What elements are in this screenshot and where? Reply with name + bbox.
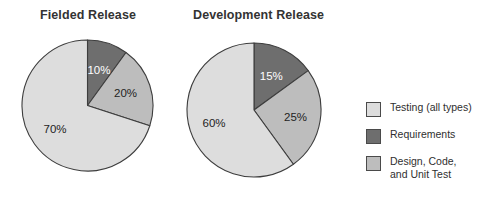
pie-chart-fielded-release: 10% 20% 70% [20, 38, 156, 174]
legend-swatch-design-code-icon [366, 156, 381, 171]
pie-1-slice-label-design-code: 20% [114, 87, 137, 99]
pie-1-slice-label-testing: 70% [44, 123, 67, 135]
chart-title-fielded-release: Fielded Release [40, 8, 136, 22]
legend-label-testing: Testing (all types) [390, 101, 472, 114]
legend-label-design-code: Design, Code, and Unit Test [390, 155, 457, 180]
legend-item-requirements: Requirements [366, 128, 488, 144]
pie-2-slice-label-testing: 60% [203, 117, 226, 129]
chart-legend: Testing (all types) Requirements Design,… [366, 101, 488, 191]
pie-chart-development-release: 15% 25% 60% [185, 41, 325, 181]
legend-item-testing: Testing (all types) [366, 101, 488, 117]
chart-title-development-release: Development Release [193, 8, 324, 22]
legend-item-design-code: Design, Code, and Unit Test [366, 155, 488, 180]
legend-swatch-testing-icon [366, 102, 381, 117]
pie-2-svg: 15% 25% 60% [185, 41, 325, 181]
legend-swatch-requirements-icon [366, 129, 381, 144]
pie-2-slice-label-requirements: 15% [260, 70, 283, 82]
pie-1-svg: 10% 20% 70% [20, 38, 156, 174]
pie-chart-figure: Fielded Release Development Release 10% … [0, 0, 489, 202]
pie-2-slice-label-design-code: 25% [284, 111, 307, 123]
legend-label-requirements: Requirements [390, 128, 455, 141]
pie-1-slice-label-requirements: 10% [87, 64, 110, 76]
